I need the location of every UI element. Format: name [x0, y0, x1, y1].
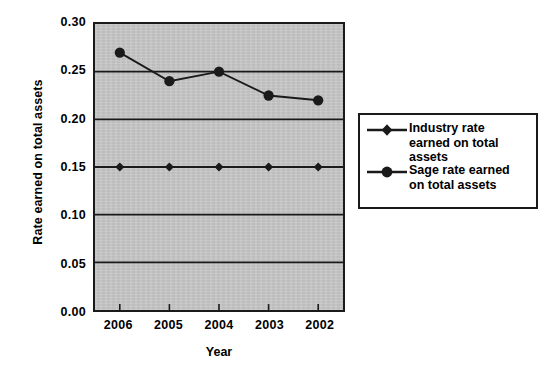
x-tick-label: 2006 [92, 318, 144, 332]
legend-item-industry[interactable]: Industry rate earned on total assets [366, 121, 534, 165]
y-tick-label: 0.05 [42, 257, 86, 271]
y-tick-label: 0.00 [42, 305, 86, 319]
legend-item-label: Industry rate earned on total assets [409, 121, 499, 165]
data-point-diamond [264, 162, 273, 171]
y-tick-label: 0.20 [42, 112, 86, 126]
y-axis-tick-labels: 0.300.250.200.150.100.050.00 [34, 0, 86, 376]
data-point-diamond [165, 162, 174, 171]
x-tick-label: 2005 [143, 318, 195, 332]
data-point-diamond [314, 162, 323, 171]
x-tick-label: 2003 [243, 318, 295, 332]
line-chart-figure: Rate earned on total assets 0.300.250.20… [0, 0, 555, 376]
plot-area [93, 22, 345, 312]
data-point-diamond [214, 162, 223, 171]
plot-series-layer [95, 24, 343, 310]
x-tick-label: 2002 [294, 318, 346, 332]
y-tick-label: 0.25 [42, 63, 86, 77]
chart-legend: Industry rate earned on total assets Sag… [358, 113, 538, 209]
circle-marker-icon [366, 164, 408, 180]
y-tick-label: 0.15 [42, 160, 86, 174]
data-point-circle [214, 67, 224, 77]
data-point-circle [115, 47, 125, 57]
y-tick-label: 0.10 [42, 208, 86, 222]
x-tick-label: 2004 [193, 318, 245, 332]
series-sage [115, 47, 324, 105]
data-point-diamond [115, 162, 124, 171]
data-point-circle [164, 76, 174, 86]
x-axis-title: Year [93, 345, 345, 359]
x-axis-ticks [120, 304, 318, 310]
y-tick-label: 0.30 [42, 15, 86, 29]
series-industry [115, 162, 322, 171]
legend-item-label: Sage rate earned on total assets [409, 163, 510, 192]
data-point-circle [263, 90, 273, 100]
legend-item-sage[interactable]: Sage rate earned on total assets [366, 163, 534, 192]
data-point-circle [313, 95, 323, 105]
diamond-marker-icon [366, 122, 408, 138]
